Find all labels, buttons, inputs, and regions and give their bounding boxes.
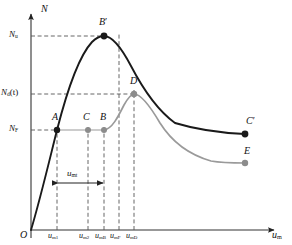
point-label-C-prime: C′ xyxy=(246,116,255,126)
curves-group xyxy=(31,36,245,230)
x-tick-umD: umD xyxy=(126,232,137,241)
point-label-E: E xyxy=(244,146,250,156)
segment-label-umt: umt xyxy=(67,169,77,179)
point-label-B-prime: B′ xyxy=(99,17,107,27)
undegraded-capacity-curve xyxy=(31,36,245,230)
axes-group xyxy=(31,14,274,238)
point-E xyxy=(242,160,248,166)
point-label-D: D xyxy=(130,76,137,86)
point-label-A: A xyxy=(52,112,58,122)
x-tick-um1: um1 xyxy=(48,232,58,241)
x-axis-label: um xyxy=(272,230,282,241)
point-C xyxy=(85,127,91,133)
point-A xyxy=(54,127,60,133)
point-D xyxy=(131,91,137,97)
y-tick-ndt: Nd(t) xyxy=(1,88,18,98)
degraded-capacity-curve xyxy=(104,94,245,163)
y-tick-nu: Nu xyxy=(9,30,18,40)
vertical-guides-group xyxy=(57,32,134,230)
point-B xyxy=(101,127,107,133)
x-tick-um2: um2 xyxy=(79,232,89,241)
y-axis-label: N xyxy=(41,4,48,14)
point-label-C: C xyxy=(83,112,90,122)
point-B-prime xyxy=(101,33,108,40)
point-label-B: B xyxy=(100,112,106,122)
x-tick-umB: umB xyxy=(95,232,106,241)
origin-label: O xyxy=(20,230,27,240)
figure-load-displacement: N um O Nu Nd(t) NF um1 um2 umB umF umD A… xyxy=(0,0,292,245)
y-tick-nf: NF xyxy=(9,124,18,134)
x-tick-umF: umF xyxy=(110,232,121,241)
point-C-prime xyxy=(242,131,249,138)
